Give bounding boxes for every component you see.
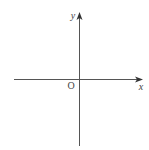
- x-axis-label: x: [138, 81, 144, 92]
- coordinate-plane: O x y: [0, 0, 149, 150]
- y-axis-label: y: [70, 10, 76, 21]
- origin-label: O: [67, 80, 74, 91]
